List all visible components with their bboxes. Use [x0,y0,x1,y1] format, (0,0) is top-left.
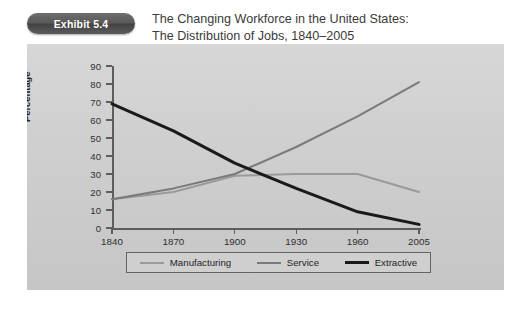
exhibit-badge-label: Exhibit 5.4 [54,18,109,30]
exhibit-title-line-1: The Changing Workforce in the United Sta… [152,11,502,28]
legend-label: Service [287,257,319,268]
series-line-service [112,82,419,199]
legend-label: Extractive [375,257,418,268]
legend-entry: Manufacturing [140,257,231,268]
legend-entry: Service [257,257,319,268]
exhibit-title: The Changing Workforce in the United Sta… [152,11,502,44]
legend-label: Manufacturing [170,257,231,268]
exhibit-badge: Exhibit 5.4 [27,13,135,34]
series-line-manufacturing [112,174,419,199]
legend-swatch-icon [140,262,164,264]
chart-panel: Percentage 0102030405060708090 184018701… [27,44,504,290]
chart-legend: ManufacturingServiceExtractive [126,252,431,273]
legend-swatch-icon [257,262,281,264]
legend-swatch-icon [345,261,369,264]
legend-entry: Extractive [345,257,418,268]
exhibit-figure: Exhibit 5.4 The Changing Workforce in th… [0,0,531,310]
series-line-extractive [112,104,419,225]
exhibit-title-line-2: The Distribution of Jobs, 1840–2005 [152,28,502,45]
